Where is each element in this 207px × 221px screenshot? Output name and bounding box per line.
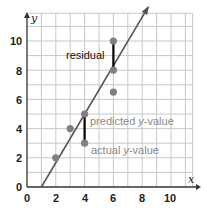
x-tick: 10: [164, 192, 176, 204]
y-tick: 6: [16, 94, 22, 106]
grid: [27, 13, 193, 187]
data-point: [110, 89, 117, 96]
y-tick: 0: [16, 181, 22, 193]
data-point: [52, 154, 59, 161]
x-tick: 0: [24, 192, 30, 204]
x-tick: 2: [53, 192, 59, 204]
y-tick: 10: [10, 35, 22, 47]
data-point: [110, 67, 117, 74]
data-point: [81, 110, 88, 117]
x-axis-label: x: [188, 173, 195, 186]
data-point: [67, 125, 74, 132]
x-tick: 8: [139, 192, 145, 204]
y-tick: 8: [16, 65, 22, 77]
y-axis-label: y: [30, 12, 38, 25]
y-tick: 2: [16, 152, 22, 164]
scatter-chart: x y 0 2 4 6 8 10 0 2 4 6 8 10 residual p…: [0, 0, 207, 221]
x-axis-arrow-icon: [196, 184, 201, 190]
x-tick: 6: [110, 192, 116, 204]
y-tick: 4: [16, 123, 23, 135]
predicted-value-label: predicted y-value: [90, 115, 174, 127]
residual-label: residual: [66, 49, 105, 61]
x-tick: 4: [82, 192, 89, 204]
actual-value-label: actual y-value: [91, 144, 159, 156]
data-point: [110, 37, 117, 44]
data-point: [81, 140, 88, 147]
annotations: residual predicted y-value actual y-valu…: [66, 49, 174, 156]
